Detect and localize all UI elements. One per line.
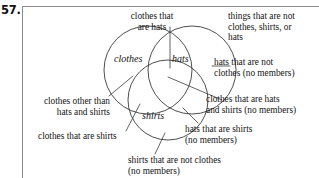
set-label-hats: hats [172, 53, 189, 64]
leader-clothes-other [109, 76, 133, 96]
leader-hats-that-are-shirts [183, 108, 198, 123]
figure-panel: 57. clothes hats shirts clothes that are… [0, 0, 319, 178]
callout-clothes-that-are-hats: clothes that are hats [108, 11, 196, 32]
callout-clothes-other-than-hats-and-shirts: clothes other than hats and shirts [24, 96, 110, 117]
callout-hats-that-are-shirts: hats that are shirts (no members) [185, 124, 285, 145]
callout-hats-that-are-not-clothes: hats that are not clothes (no members) [214, 57, 318, 78]
callout-things-that-are-not: things that are not clothes, shirts, or … [228, 11, 319, 43]
callout-shirts-that-are-not-clothes: shirts that are not clothes (no members) [128, 155, 252, 176]
callout-clothes-that-are-shirts: clothes that are shirts [38, 131, 142, 142]
set-label-shirts: shirts [142, 110, 164, 121]
callout-clothes-that-are-hats-and-shirts: clothes that are hats and shirts (no mem… [206, 94, 316, 115]
leader-shirts-that-are-not-clothes [155, 133, 165, 154]
set-label-clothes: clothes [114, 53, 142, 64]
